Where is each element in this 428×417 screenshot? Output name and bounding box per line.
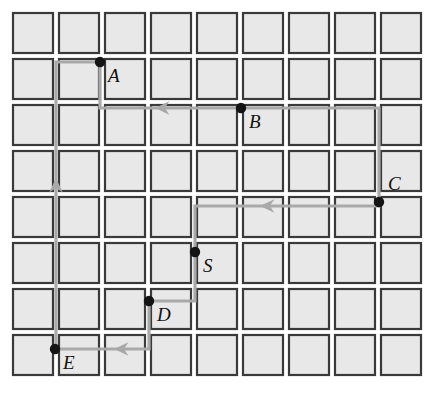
node-label-e: E <box>63 353 75 372</box>
graph-node-b[interactable] <box>236 103 246 113</box>
graph-node-e[interactable] <box>50 344 60 354</box>
graph-node-a[interactable] <box>95 57 105 67</box>
node-label-a: A <box>108 66 120 85</box>
node-label-b: B <box>249 112 261 131</box>
node-label-c: C <box>388 174 401 193</box>
path-edge <box>195 202 379 252</box>
path-edge <box>55 62 100 349</box>
node-label-s: S <box>203 256 213 275</box>
path-edge <box>55 252 195 349</box>
edges-group <box>55 62 379 349</box>
path-edge <box>100 62 379 202</box>
node-label-d: D <box>157 305 171 324</box>
graph-node-c[interactable] <box>374 197 384 207</box>
diagram-canvas: ABCSDE <box>0 0 428 417</box>
graph-node-s[interactable] <box>190 247 200 257</box>
graph-node-d[interactable] <box>144 296 154 306</box>
